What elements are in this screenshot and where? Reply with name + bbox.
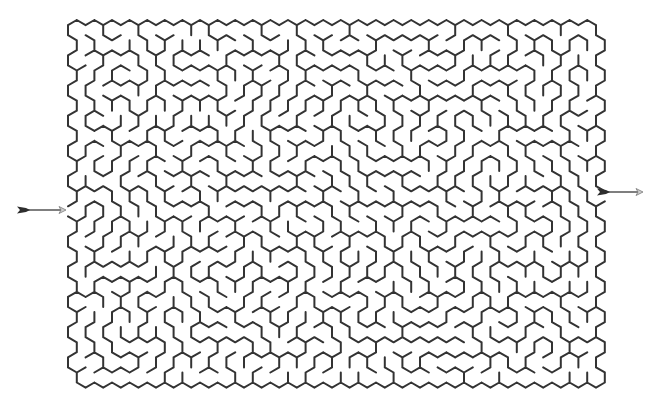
entrance-arrow-icon bbox=[17, 207, 66, 214]
arrow-fletching-icon bbox=[17, 207, 30, 214]
maze-walls bbox=[68, 20, 605, 388]
maze-wall-path bbox=[68, 20, 605, 388]
maze-canvas bbox=[0, 0, 661, 401]
